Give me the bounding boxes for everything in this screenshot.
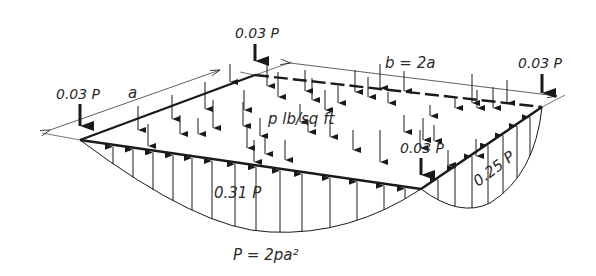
edge-back-right xyxy=(255,75,542,107)
label-formula: P = 2pa² xyxy=(233,246,298,264)
label-reaction-long: 0.31 P xyxy=(214,184,262,202)
reaction-diagram-short-edge xyxy=(421,107,542,208)
reaction-curve-short xyxy=(421,107,542,208)
label-dimension-a: a xyxy=(128,84,137,102)
slab-reaction-diagram: 0.03 P 0.03 P 0.03 P 0.03 P a b = 2a p l… xyxy=(0,0,596,276)
label-corner-front: 0.03 P xyxy=(400,140,445,156)
edge-left-back xyxy=(80,75,255,140)
slab-outline xyxy=(80,75,542,189)
label-dimension-b: b = 2a xyxy=(385,54,435,72)
edge-left-front xyxy=(80,140,421,189)
label-reaction-short: 0.25 P xyxy=(470,147,519,190)
label-corner-left: 0.03 P xyxy=(56,86,101,102)
label-load: p lb/sq ft xyxy=(267,110,335,128)
label-corner-back: 0.03 P xyxy=(235,25,280,41)
label-corner-right: 0.03 P xyxy=(518,55,563,71)
